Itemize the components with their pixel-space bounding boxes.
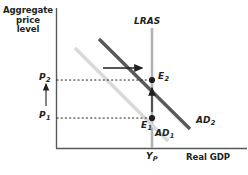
y-tick-label-p1: P1	[39, 110, 50, 120]
ad1-curve-label-text: AD	[155, 128, 169, 138]
lras-curve-label: LRAS	[134, 16, 160, 26]
x-tick-label-yp-subscript: P	[153, 155, 158, 163]
x-axis-title: Real GDP	[186, 153, 230, 163]
ad2-curve-label-text: AD	[196, 115, 210, 125]
y-tick-label-p2: P2	[39, 72, 50, 82]
ad2-curve-label: AD2	[196, 115, 215, 125]
y-tick-label-p2-text: P	[39, 72, 46, 82]
y-axis-title: Aggregate price level	[2, 6, 54, 35]
equilibrium-e1-label-subscript: 1	[147, 124, 152, 132]
x-tick-label-yp-text: Y	[146, 151, 153, 161]
y-tick-label-p1-text: P	[39, 110, 46, 120]
ad1-curve-label-subscript: 1	[170, 132, 175, 140]
figure-container: Aggregate price level Real GDP LRAS AD2 …	[0, 0, 248, 175]
ad2-curve-label-subscript: 2	[211, 119, 216, 127]
equilibrium-point-e2	[149, 77, 155, 83]
equilibrium-e1-label: E1	[141, 120, 152, 130]
equilibrium-e2-label: E2	[158, 71, 169, 81]
y-tick-label-p1-subscript: 1	[46, 114, 51, 122]
y-tick-label-p2-subscript: 2	[46, 76, 51, 84]
ad1-curve-label: AD1	[155, 128, 174, 138]
equilibrium-e2-label-subscript: 2	[164, 75, 169, 83]
x-tick-label-yp: YP	[146, 151, 157, 161]
